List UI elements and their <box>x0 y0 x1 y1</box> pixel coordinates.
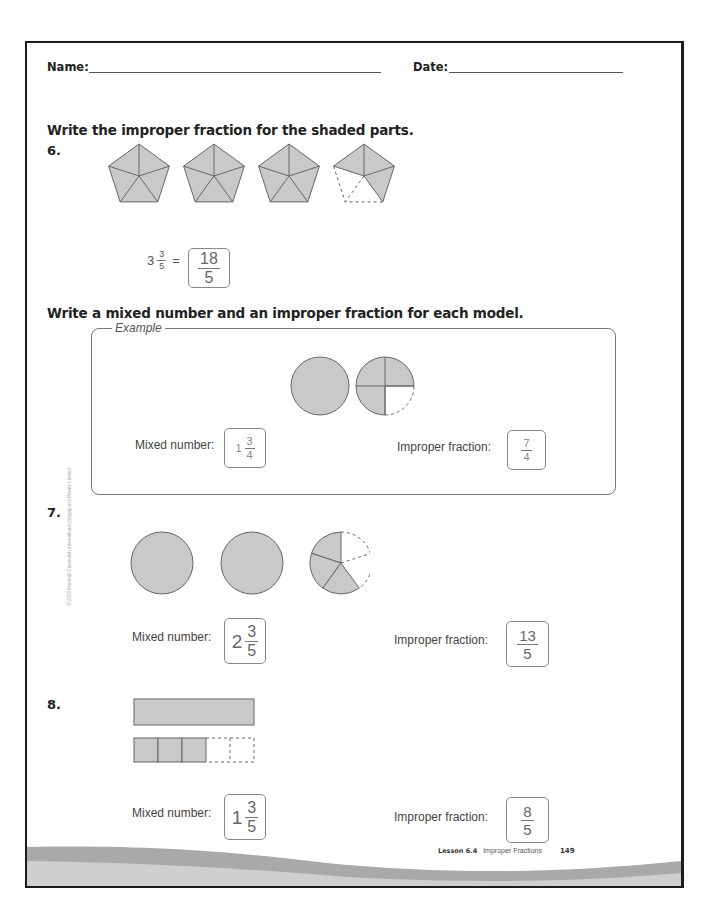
circle-three-quarters <box>356 357 414 415</box>
example-circle-model <box>289 354 417 422</box>
question-6-number: 6. <box>47 143 61 158</box>
example-mixed-label: Mixed number: <box>135 438 214 452</box>
equals-sign: = <box>172 253 180 268</box>
pentagon-3 <box>259 144 320 202</box>
copyright-notice: © 2009 Marshall Cavendish International … <box>67 406 72 606</box>
question-7-number: 7. <box>47 505 61 520</box>
question-7-mixed-box[interactable]: 2 35 <box>224 618 266 664</box>
pentagon-2 <box>184 144 245 202</box>
example-improper-box: 74 <box>507 430 546 470</box>
example-mixed-box: 1 34 <box>224 428 266 468</box>
circle-whole <box>291 357 349 415</box>
date-field[interactable] <box>449 72 623 73</box>
equation-fraction: 3 5 <box>157 250 166 271</box>
question-6-answer-box[interactable]: 185 <box>188 248 230 288</box>
question-6-equation: 3 3 5 = <box>147 250 180 271</box>
question-7-mixed-label: Mixed number: <box>132 630 211 644</box>
equation-whole: 3 <box>147 254 154 267</box>
example-title: Example <box>112 321 165 335</box>
example-improper-label: Improper fraction: <box>397 440 491 454</box>
date-label: Date: <box>413 60 448 74</box>
question-7-circle-model <box>130 530 370 600</box>
pentagon-model <box>107 143 407 213</box>
question-8-number: 8. <box>47 697 61 712</box>
question-8-bar-model <box>133 698 257 768</box>
question-8-improper-label: Improper fraction: <box>394 810 488 824</box>
worksheet-page: Name: Date: Write the improper fraction … <box>25 41 684 888</box>
pentagon-1 <box>109 144 170 202</box>
question-7-improper-box[interactable]: 135 <box>506 621 549 667</box>
footer-wave-decoration <box>27 833 681 888</box>
bar-partial <box>134 738 254 762</box>
name-field[interactable] <box>89 72 381 73</box>
section1-instruction: Write the improper fraction for the shad… <box>47 122 414 138</box>
question-7-improper-label: Improper fraction: <box>394 633 488 647</box>
pentagon-4-partial <box>334 144 395 202</box>
bar-whole <box>134 699 254 725</box>
section2-instruction: Write a mixed number and an improper fra… <box>47 305 524 321</box>
name-label: Name: <box>47 60 89 74</box>
question-8-mixed-label: Mixed number: <box>132 806 211 820</box>
